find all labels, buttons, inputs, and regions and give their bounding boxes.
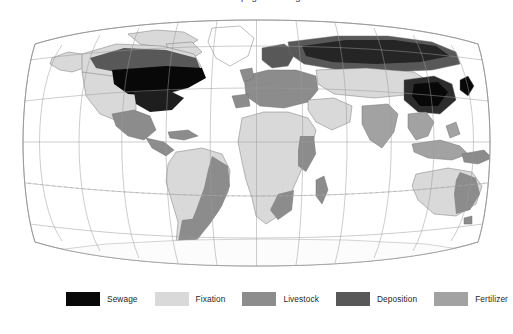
legend: Sewage Fixation Livestock Deposition Fer… bbox=[0, 288, 513, 314]
legend-item-livestock: Livestock bbox=[242, 292, 319, 306]
legend-item-fertilizer: Fertilizer bbox=[434, 292, 508, 306]
legend-item-fixation: Fixation bbox=[155, 292, 226, 306]
legend-item-deposition: Deposition bbox=[336, 292, 417, 306]
legend-label-fixation: Fixation bbox=[196, 294, 226, 304]
legend-label-sewage: Sewage bbox=[107, 294, 138, 304]
legend-row: Sewage Fixation Livestock Deposition Fer… bbox=[66, 288, 508, 310]
legend-label-livestock: Livestock bbox=[283, 294, 319, 304]
figure-title: Dominant anthropogenic nitrogen source bbox=[0, 0, 513, 3]
legend-item-sewage: Sewage bbox=[66, 292, 138, 306]
legend-swatch-livestock bbox=[242, 292, 276, 306]
legend-label-fertilizer: Fertilizer bbox=[475, 294, 508, 304]
legend-swatch-deposition bbox=[336, 292, 370, 306]
legend-swatch-fertilizer bbox=[434, 292, 468, 306]
legend-label-deposition: Deposition bbox=[377, 294, 417, 304]
legend-swatch-sewage bbox=[66, 292, 100, 306]
region-new-zealand-livestock bbox=[492, 192, 497, 216]
world-map-svg bbox=[16, 14, 497, 274]
legend-swatch-fixation bbox=[155, 292, 189, 306]
figure-root: Dominant anthropogenic nitrogen source bbox=[0, 0, 513, 334]
world-map bbox=[16, 14, 497, 274]
region-europe-livestock bbox=[244, 70, 318, 108]
